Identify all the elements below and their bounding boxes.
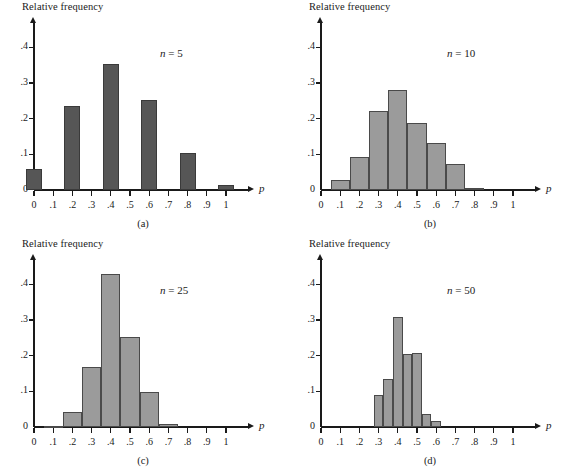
x-axis-tick-label: .4 [388,436,408,447]
x-axis-tick [436,191,437,196]
sample-size-symbol: n [160,47,166,59]
x-axis-tick-label: .5 [407,199,427,210]
x-axis-tick-label: 1 [216,436,236,447]
x-axis-tick-label: .5 [120,436,140,447]
panel-a: Relative frequency n = 5 p0.1.2.3.40.1.2… [0,0,286,237]
x-axis-tick [397,191,398,196]
histogram-bar [331,180,350,190]
x-axis-tick [53,191,54,196]
y-axis-tick [316,391,321,392]
x-axis-tick-label: .8 [465,199,485,210]
x-axis-tick [455,191,456,196]
y-axis-tick-label: .1 [10,147,28,158]
x-axis-name: p [259,419,265,431]
x-axis-tick-label: 1 [216,199,236,210]
histogram-bar [82,367,101,427]
histogram-bar [383,379,393,427]
x-axis-tick-label: .7 [445,199,465,210]
x-axis-tick [436,428,437,433]
sample-size-label: n = 5 [160,47,183,59]
y-axis-line [320,260,321,427]
x-axis-tick-label: .6 [139,436,159,447]
y-axis-tick [316,47,321,48]
x-axis-tick [378,428,379,433]
equals-sign: = [455,284,461,296]
x-axis-tick [72,428,73,433]
x-axis-tick [149,191,150,196]
x-axis-arrow [248,186,254,192]
histogram-bar [407,123,426,190]
y-axis-tick-label: 0 [297,183,315,194]
y-axis-arrow [30,17,36,23]
y-axis-tick-label: .2 [10,112,28,123]
histogram-bar [350,157,369,190]
y-axis-tick [29,355,34,356]
y-axis-tick-label: .4 [10,277,28,288]
x-axis-tick [168,428,169,433]
x-axis-tick-label: .8 [178,199,198,210]
histogram-bar [403,354,413,427]
x-axis-tick [397,428,398,433]
y-axis-tick [29,47,34,48]
x-axis-tick [225,428,226,433]
y-axis-tick-label: 0 [10,420,28,431]
x-axis-tick-label: .3 [82,199,102,210]
y-axis-tick [316,355,321,356]
y-axis-tick [316,118,321,119]
y-axis-tick-label: .3 [297,313,315,324]
x-axis-tick [359,428,360,433]
y-axis-tick [316,319,321,320]
x-axis-tick-label: 0 [24,199,44,210]
x-axis-tick-label: .2 [62,436,82,447]
y-axis-tick-label: .4 [297,277,315,288]
x-axis-tick-label: 1 [503,199,523,210]
sample-size-value: 10 [464,47,475,59]
x-axis-tick [53,428,54,433]
equals-sign: = [168,47,174,59]
sample-size-label: n = 25 [160,284,188,296]
y-axis-tick [29,82,34,83]
x-axis-tick [474,428,475,433]
y-axis-tick [316,82,321,83]
x-axis-tick [33,428,34,433]
panel-b: Relative frequency n = 10 p0.1.2.3.40.1.… [287,0,573,237]
histogram-bar [388,90,407,190]
x-axis-tick-label: .7 [158,199,178,210]
y-axis-arrow [317,17,323,23]
x-axis-tick [493,191,494,196]
y-axis-tick-label: .3 [10,76,28,87]
histogram-bar [427,143,446,190]
x-axis-arrow [535,423,541,429]
histogram-bar [412,353,422,427]
x-axis-tick-label: .3 [369,199,389,210]
x-axis-tick-label: .8 [465,436,485,447]
y-axis-tick-label: .1 [297,384,315,395]
y-axis-tick-label: .2 [10,349,28,360]
y-axis-title: Relative frequency [309,238,390,249]
panel-caption: (a) [0,218,286,229]
x-axis-tick-label: .5 [120,199,140,210]
x-axis-tick-label: .4 [101,199,121,210]
sample-size-value: 50 [464,284,475,296]
x-axis-tick [33,191,34,196]
histogram-bar [26,169,42,190]
x-axis-tick-label: 0 [311,199,331,210]
x-axis-tick-label: .1 [330,199,350,210]
histogram-bar [180,153,196,190]
x-axis-tick [455,428,456,433]
x-axis-tick-label: .7 [445,436,465,447]
x-axis-tick-label: .2 [349,436,369,447]
x-axis-tick-label: .9 [484,436,504,447]
sample-size-value: 5 [177,47,183,59]
x-axis-tick [378,191,379,196]
histogram-bar [465,188,484,190]
x-axis-tick-label: .1 [43,436,63,447]
y-axis-tick [29,118,34,119]
x-axis-tick [187,191,188,196]
sample-size-value: 25 [177,284,188,296]
y-axis-tick-label: .2 [297,349,315,360]
y-axis-tick-label: .1 [297,147,315,158]
x-axis-name: p [546,182,552,194]
histogram-bar [101,274,120,427]
x-axis-tick [149,428,150,433]
